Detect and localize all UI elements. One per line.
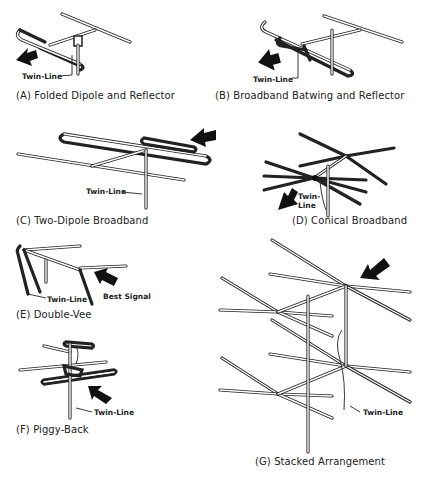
caption-b: (B) Broadband Batwing and Reflector — [215, 90, 405, 101]
caption-c: (C) Two-Dipole Broadband — [16, 215, 148, 226]
panel-f-piggy-back: Twin-Line (F) Piggy-Back — [0, 340, 200, 477]
twin-line-label-1: Twin- — [298, 192, 320, 201]
arrow-icon — [0, 240, 200, 340]
panel-e-double-vee: Twin-Line Best Signal (E) Double-Vee — [0, 240, 200, 340]
caption-d: (D) Conical Broadband — [292, 215, 407, 226]
twin-line-label: Twin-Line — [86, 187, 126, 196]
panel-b-batwing: Twin-Line (B) Broadband Batwing and Refl… — [210, 0, 421, 110]
twin-line-label: Twin-Line — [94, 408, 134, 417]
twin-line-label: Twin-Line — [22, 72, 62, 81]
arrow-icon — [200, 240, 421, 477]
twin-line-label: Twin-Line — [253, 75, 293, 84]
caption-a: (A) Folded Dipole and Reflector — [16, 90, 175, 101]
twin-line-label: Twin-Line — [363, 408, 403, 417]
panel-g-stacked: Twin-Line (G) Stacked Arrangement — [200, 240, 421, 477]
twin-line-label: Twin-Line — [47, 295, 87, 304]
caption-g: (G) Stacked Arrangement — [255, 456, 385, 467]
panel-c-two-dipole: Twin-Line (C) Two-Dipole Broadband — [0, 120, 220, 235]
best-signal-label: Best Signal — [103, 292, 151, 301]
caption-f: (F) Piggy-Back — [16, 424, 89, 435]
panel-d-conical: Twin- Line (D) Conical Broadband — [220, 130, 421, 240]
twin-line-label-2: Line — [298, 201, 316, 210]
caption-e: (E) Double-Vee — [16, 309, 92, 320]
panel-a-folded-dipole: Twin-Line (A) Folded Dipole and Reflecto… — [0, 0, 210, 110]
